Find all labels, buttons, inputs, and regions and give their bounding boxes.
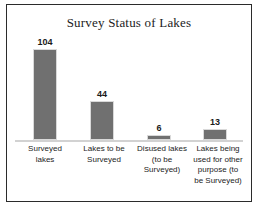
- category-label-line: Lakes being: [187, 144, 249, 155]
- chart-plot-area: Survey Status of Lakes 10444613 Surveyed…: [7, 5, 251, 201]
- bar-rect[interactable]: [203, 129, 227, 140]
- bar-value-label: 13: [203, 117, 227, 127]
- category-axis-label: Lakes to beSurveyed: [73, 144, 135, 165]
- category-label-line: (to be: [131, 155, 193, 166]
- chart-title: Survey Status of Lakes: [7, 15, 251, 31]
- category-axis-line: [15, 140, 243, 142]
- category-label-line: used for other: [187, 155, 249, 166]
- category-label-line: Surveyed: [73, 155, 135, 166]
- bar-slot: 13: [203, 35, 227, 140]
- bar-rect[interactable]: [90, 101, 114, 140]
- bar-value-label: 44: [90, 89, 114, 99]
- bar-series-layer: 10444613: [7, 35, 251, 140]
- category-label-line: Surveyed): [131, 165, 193, 176]
- category-label-line: be Surveyed): [187, 176, 249, 187]
- category-label-line: Lakes to be: [73, 144, 135, 155]
- bar-rect[interactable]: [33, 49, 57, 140]
- category-labels-layer: SurveyedlakesLakes to beSurveyedDisused …: [7, 144, 251, 202]
- category-axis-label: Surveyedlakes: [15, 144, 75, 165]
- category-label-line: Surveyed: [15, 144, 75, 155]
- category-label-line: Disused lakes: [131, 144, 193, 155]
- bar-slot: 104: [33, 35, 57, 140]
- bar-slot: 44: [90, 35, 114, 140]
- category-axis-label: Disused lakes(to beSurveyed): [131, 144, 193, 176]
- category-label-line: purpose (to: [187, 165, 249, 176]
- category-label-line: lakes: [15, 155, 75, 166]
- bar-slot: 6: [147, 35, 171, 140]
- category-axis-label: Lakes beingused for otherpurpose (tobe S…: [187, 144, 249, 186]
- chart-frame: Survey Status of Lakes 10444613 Surveyed…: [6, 4, 252, 202]
- bar-value-label: 6: [147, 123, 171, 133]
- bar-value-label: 104: [33, 37, 57, 47]
